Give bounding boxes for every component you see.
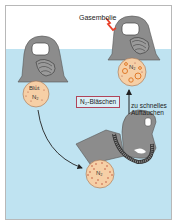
blood-label: Blut — [29, 85, 39, 92]
diver-right-icon — [108, 16, 160, 60]
n2-dissolved-label: N₂ — [32, 94, 39, 101]
ascent-label-line2: Auftauchen — [131, 109, 164, 117]
n2-bubbles-label: N₂-Bläschen — [76, 96, 120, 108]
descent-arrow — [38, 110, 82, 168]
n2-surface-label: N₂ — [129, 64, 136, 71]
diver-deep-icon — [76, 110, 156, 164]
gas-embolism-label: Gasembolie — [79, 14, 116, 22]
n2-deep-label: N₂ — [96, 170, 103, 177]
diagram-frame: Gasembolie N₂-Bläschen zu schnelles Auft… — [5, 5, 172, 220]
diver-left-icon — [18, 36, 68, 82]
